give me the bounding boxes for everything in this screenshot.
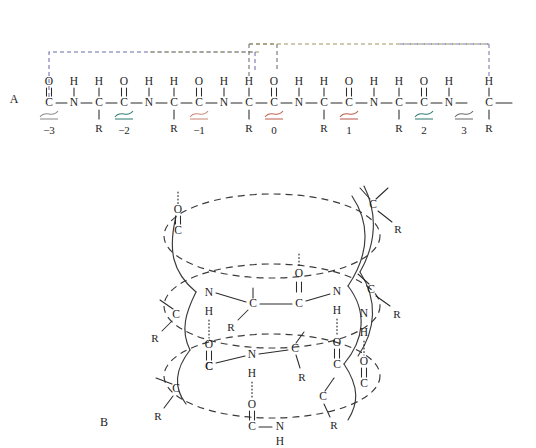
single-bond: [296, 332, 304, 343]
residue-number: 1: [346, 124, 352, 136]
oxygen-atom: O: [174, 203, 182, 215]
carbon-atom: C: [333, 358, 341, 370]
sidechain-label: R: [395, 122, 403, 134]
hydrogen-atom: H: [370, 75, 378, 87]
helix-middle-atoms: N H O C C R C O N H O: [151, 254, 401, 389]
hbond-bracket-right: [249, 44, 489, 76]
hydrogen-atom: H: [95, 75, 103, 87]
oxygen-atom: O: [420, 75, 428, 87]
nitrogen-atom: N: [360, 307, 369, 319]
carbon-atom: C: [205, 360, 213, 372]
sidechain-label: R: [245, 122, 253, 134]
hydrogen-atom: H: [205, 305, 213, 317]
hydrogen-atom: H: [245, 75, 253, 87]
hydrogen-atom: H: [333, 304, 341, 316]
oxygen-atom: O: [120, 75, 128, 87]
carbon-atom: C: [345, 96, 353, 108]
nitrogen-atom: N: [445, 96, 454, 108]
carbon-atom: C: [120, 96, 128, 108]
oxygen-atom: O: [205, 338, 213, 350]
single-bond: [376, 188, 388, 199]
residue-number: −1: [193, 124, 205, 136]
oxygen-atom: O: [345, 75, 353, 87]
single-bond: [306, 294, 330, 301]
nitrogen-atom: N: [295, 96, 304, 108]
nitrogen-atom: N: [370, 96, 379, 108]
double-bond: [335, 349, 340, 358]
oxygen-atom: O: [248, 398, 256, 410]
carbon-atom: C: [420, 96, 428, 108]
single-bond: [216, 293, 246, 302]
residue-braces: −3 −2 −1 0 1 2 3: [40, 111, 473, 136]
hydrogen-atom: H: [485, 75, 493, 87]
hbond-bracket-inner: [249, 44, 277, 78]
alpha-carbon-atom: C: [291, 342, 299, 354]
helix-coil-front: [172, 186, 373, 420]
residue-number: −3: [43, 124, 55, 136]
hydrogen-atom: H: [276, 435, 284, 447]
sidechain-label: R: [298, 371, 306, 383]
carbon-atom: C: [270, 96, 278, 108]
hydrogen-atom: H: [248, 367, 256, 379]
hydrogen-atom: H: [70, 75, 78, 87]
carbon-atom: C: [295, 297, 303, 309]
sidechain-bond: [378, 211, 392, 222]
residue-number: 0: [271, 124, 277, 136]
oxygen-atom: O: [295, 267, 303, 279]
figure-canvas: A O: [0, 0, 536, 448]
oxygen-atom: O: [333, 336, 341, 348]
sidechain-label: R: [394, 223, 402, 235]
hydrogen-atom: H: [170, 75, 178, 87]
sidechain-label: R: [154, 410, 162, 422]
sidechain-bond: [324, 404, 330, 417]
double-bond: [250, 411, 255, 420]
sidechain-label: R: [485, 122, 493, 134]
helix-rings: [164, 194, 380, 418]
carbon-atom: C: [45, 96, 53, 108]
nitrogen-atom: N: [145, 96, 154, 108]
hydrogen-atom: H: [360, 326, 368, 338]
single-bond: [160, 300, 173, 309]
alpha-carbon-atom: C: [245, 96, 253, 108]
alpha-carbon-atom: C: [95, 96, 103, 108]
alpha-carbon-atom: C: [485, 96, 493, 108]
double-bond: [207, 351, 212, 360]
nitrogen-atom: N: [248, 348, 257, 360]
nitrogen-atom: N: [276, 420, 285, 432]
alpha-carbon-atom: C: [367, 283, 375, 295]
sidechain-bond: [162, 321, 172, 331]
alpha-carbon-atom: C: [319, 390, 327, 402]
hydrogen-atom: H: [395, 75, 403, 87]
hydrogen-atom: H: [320, 75, 328, 87]
sidechain-bond: [164, 396, 173, 408]
panel-a-group: A O: [10, 44, 512, 136]
backbone-chain: O C H N H C R O C H: [45, 75, 512, 134]
carbon-atom: C: [195, 96, 203, 108]
sidechain-label: R: [151, 332, 159, 344]
carbon-atom: C: [248, 420, 256, 432]
oxygen-atom: O: [360, 355, 368, 367]
oxygen-atom: O: [195, 75, 203, 87]
panel-b-label: B: [100, 415, 108, 429]
panel-a-label: A: [10, 92, 19, 106]
alpha-carbon-atom: C: [320, 96, 328, 108]
highlight-bond: [216, 356, 245, 363]
single-bond: [358, 274, 369, 284]
sidechain-label: R: [320, 122, 328, 134]
carbon-atom: C: [174, 224, 182, 236]
double-bond: [297, 282, 302, 292]
sidechain-label: R: [95, 122, 103, 134]
single-bond: [360, 188, 370, 199]
residue-number: −2: [118, 124, 130, 136]
alpha-carbon-atom: C: [172, 382, 180, 394]
panel-b-group: B O C: [100, 186, 402, 447]
hbond-bracket-left: [49, 52, 262, 97]
figure-root: A O: [0, 0, 536, 448]
sidechain-bond: [376, 296, 390, 306]
hydrogen-atom: H: [145, 75, 153, 87]
sidechain-label: R: [227, 321, 235, 333]
single-bond: [325, 378, 334, 391]
carbon-atom: C: [360, 377, 368, 389]
oxygen-atom: O: [270, 75, 278, 87]
highlight-bond: [259, 350, 288, 354]
